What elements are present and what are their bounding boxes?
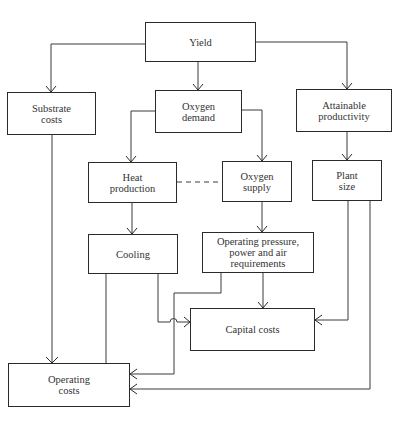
node-label: Attainable productivity [318, 100, 369, 122]
edge-plant-operating [130, 201, 370, 389]
edge-plant-capital [315, 201, 348, 320]
node-label: Oxygen supply [240, 171, 273, 193]
node-label: Capital costs [226, 324, 280, 335]
node-plant-size: Plant size [312, 160, 382, 201]
node-label: Operating costs [48, 374, 90, 396]
node-operating-pressure: Operating pressure, power and air requir… [202, 232, 314, 273]
node-label: Heat production [110, 172, 156, 194]
edge-oxygen-demand-supply [242, 110, 262, 161]
node-heat-production: Heat production [88, 162, 177, 203]
node-label: Substrate costs [32, 103, 71, 125]
flowchart-diagram: Yield Substrate costs Oxygen demand Atta… [0, 0, 410, 426]
edge-yield-substrate [51, 44, 145, 92]
node-label: Operating pressure, power and air requir… [217, 236, 299, 269]
node-capital-costs: Capital costs [190, 308, 315, 351]
node-label: Yield [189, 37, 212, 48]
node-oxygen-demand: Oxygen demand [155, 90, 242, 133]
node-label: Cooling [116, 249, 150, 260]
node-label: Oxygen demand [182, 101, 215, 123]
edge-oxygen-demand-heat [131, 111, 155, 162]
node-attainable-productivity: Attainable productivity [296, 89, 392, 132]
node-label: Plant size [336, 170, 358, 192]
node-operating-costs: Operating costs [8, 363, 130, 407]
edge-yield-attainable [256, 42, 347, 89]
node-cooling: Cooling [88, 234, 178, 274]
node-substrate-costs: Substrate costs [7, 92, 96, 135]
node-yield: Yield [145, 22, 256, 62]
node-oxygen-supply: Oxygen supply [222, 161, 292, 202]
